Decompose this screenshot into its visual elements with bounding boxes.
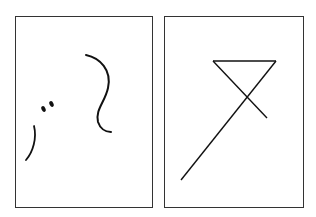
- right-panel-frame: [165, 17, 304, 208]
- arc-stroke: [26, 126, 35, 160]
- long-diagonal-line: [181, 61, 276, 180]
- diagram-canvas: [0, 0, 316, 217]
- left-panel: [16, 17, 153, 208]
- s-curve-stroke: [86, 55, 111, 132]
- dot-left: [40, 105, 46, 112]
- left-panel-frame: [16, 17, 153, 208]
- right-panel: [165, 17, 304, 208]
- triangle-left-line: [213, 61, 267, 118]
- dot-right: [48, 100, 54, 107]
